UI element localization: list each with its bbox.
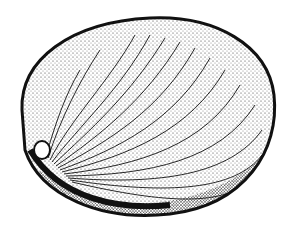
hole: [34, 141, 50, 159]
shell-illustration: [0, 0, 296, 235]
shell-body: [20, 18, 280, 235]
shell-drawing: [0, 0, 296, 235]
